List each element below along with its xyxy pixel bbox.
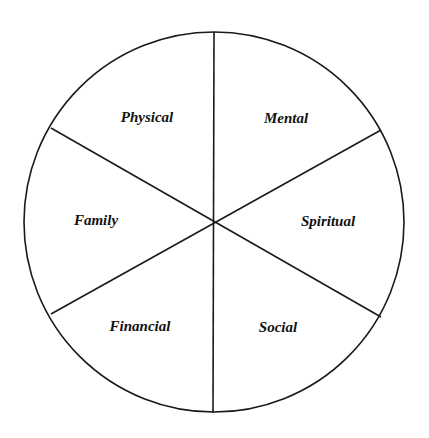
wheel-graphic: [0, 0, 429, 438]
segment-label-social: Social: [259, 319, 297, 336]
segment-label-family: Family: [74, 212, 118, 229]
segment-label-financial: Financial: [110, 318, 171, 335]
segment-label-physical: Physical: [121, 109, 174, 126]
segment-label-spiritual: Spiritual: [301, 213, 355, 230]
segment-label-mental: Mental: [264, 110, 308, 127]
